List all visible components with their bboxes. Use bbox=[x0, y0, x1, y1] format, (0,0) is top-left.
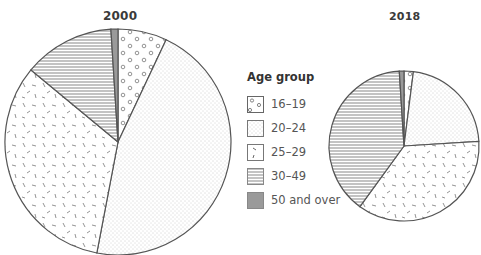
slice-20-24 bbox=[404, 72, 479, 146]
horizontal-lines-pattern-swatch-icon bbox=[247, 168, 264, 185]
legend-title: Age group bbox=[247, 70, 340, 84]
legend-label: 25–29 bbox=[271, 145, 306, 159]
legend-label: 50 and over bbox=[271, 193, 340, 207]
pie-chart-2000 bbox=[5, 29, 231, 255]
legend-item-25-29: 25–29 bbox=[247, 140, 340, 164]
legend-item-20-24: 20–24 bbox=[247, 116, 340, 140]
dots-pattern-swatch-icon bbox=[247, 120, 264, 137]
legend: Age group 16–19 20–24 25–29 30–49 50 and… bbox=[247, 70, 340, 212]
legend-item-30-49: 30–49 bbox=[247, 164, 340, 188]
solid-gray-swatch-icon bbox=[247, 192, 264, 209]
dashes-pattern-swatch-icon bbox=[247, 144, 264, 161]
legend-item-16-19: 16–19 bbox=[247, 92, 340, 116]
pie-charts bbox=[0, 0, 481, 255]
legend-item-50-and-over: 50 and over bbox=[247, 188, 340, 212]
legend-label: 20–24 bbox=[271, 121, 306, 135]
legend-label: 16–19 bbox=[271, 97, 306, 111]
pie-chart-2018 bbox=[329, 71, 479, 221]
circles-pattern-swatch-icon bbox=[247, 96, 264, 113]
legend-label: 30–49 bbox=[271, 169, 306, 183]
